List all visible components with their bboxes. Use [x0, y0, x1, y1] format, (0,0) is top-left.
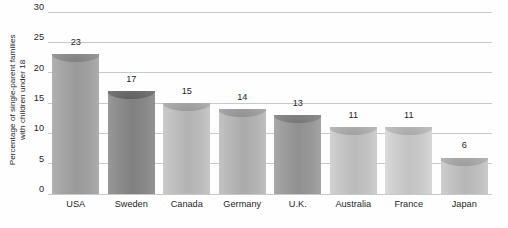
x-axis-tick-label: Sweden	[104, 200, 160, 209]
bar-value-label: 6	[441, 141, 488, 150]
y-axis-tick-label: 25	[14, 33, 44, 42]
x-axis-tick-label: USA	[48, 200, 104, 209]
bar[interactable]	[274, 115, 321, 194]
bar-body	[219, 109, 266, 194]
x-axis-tick-label: Australia	[326, 200, 382, 209]
x-axis-tick-label: Canada	[159, 200, 215, 209]
bar-group[interactable]: 11	[385, 12, 432, 194]
y-axis-tick-labels: 051015202530	[10, 12, 44, 194]
bar-value-label: 11	[330, 111, 377, 120]
bar-value-label: 23	[52, 38, 99, 47]
bar-value-label: 17	[108, 75, 155, 84]
x-axis-tick-labels: USASwedenCanadaGermanyU.K.AustraliaFranc…	[48, 200, 492, 220]
bar-group[interactable]: 11	[330, 12, 377, 194]
bar-body	[274, 115, 321, 194]
bar-body	[385, 127, 432, 194]
bar[interactable]	[219, 109, 266, 194]
bar-group[interactable]: 15	[163, 12, 210, 194]
bars-layer: 231715141311116	[48, 12, 492, 194]
bar-body	[108, 91, 155, 194]
bar[interactable]	[52, 54, 99, 194]
y-axis-tick-label: 10	[14, 124, 44, 133]
x-axis-tick-label: Germany	[215, 200, 271, 209]
x-axis-tick-label: U.K.	[270, 200, 326, 209]
bar-group[interactable]: 23	[52, 12, 99, 194]
bar-value-label: 11	[385, 111, 432, 120]
bar[interactable]	[385, 127, 432, 194]
bar-group[interactable]: 6	[441, 12, 488, 194]
bar[interactable]	[108, 91, 155, 194]
bar[interactable]	[441, 158, 488, 194]
y-axis-tick-label: 15	[14, 94, 44, 103]
bar-body	[52, 54, 99, 194]
bar-value-label: 13	[274, 99, 321, 108]
y-axis-tick-label: 0	[14, 185, 44, 194]
bar-group[interactable]: 13	[274, 12, 321, 194]
y-axis-tick-label: 5	[14, 155, 44, 164]
bar-body	[330, 127, 377, 194]
bar-group[interactable]: 14	[219, 12, 266, 194]
y-axis-tick-label: 30	[14, 3, 44, 12]
x-axis-tick-label: Japan	[437, 200, 493, 209]
bar-value-label: 14	[219, 93, 266, 102]
y-axis-tick-label: 20	[14, 64, 44, 73]
bar-value-label: 15	[163, 87, 210, 96]
bar[interactable]	[330, 127, 377, 194]
bar-group[interactable]: 17	[108, 12, 155, 194]
bar-chart: Percentage of single-parent families wit…	[0, 0, 508, 228]
plot-area: 231715141311116	[48, 12, 492, 194]
bar[interactable]	[163, 103, 210, 194]
x-axis-tick-label: France	[381, 200, 437, 209]
bar-body	[163, 103, 210, 194]
